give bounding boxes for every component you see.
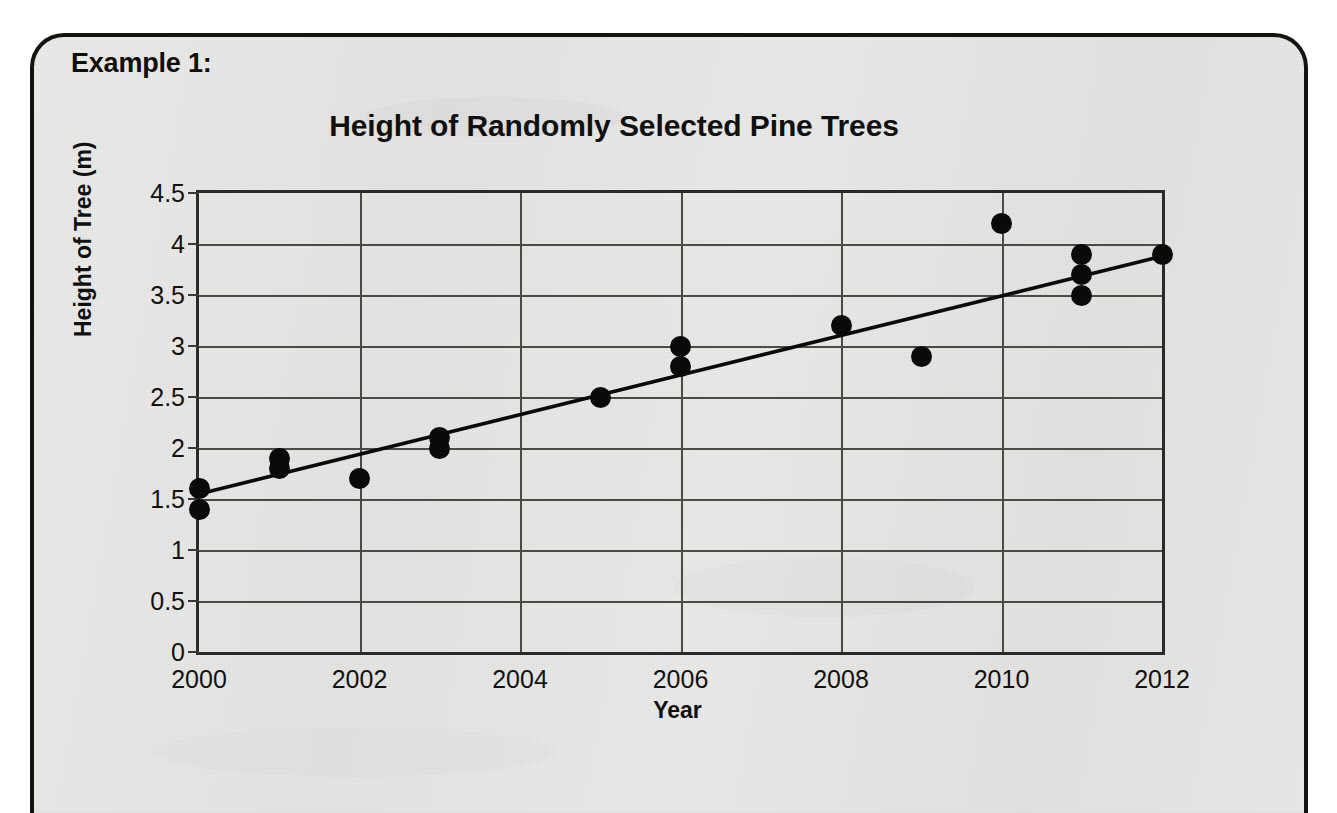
x-tick-label: 2012 xyxy=(1134,665,1190,694)
data-point xyxy=(429,438,450,459)
y-tick-mark xyxy=(188,651,199,653)
y-tick-mark xyxy=(188,192,199,194)
y-tick-label: 2 xyxy=(171,434,185,463)
data-point xyxy=(911,346,932,367)
worksheet-rounded-box: Example 1: Height of Randomly Selected P… xyxy=(30,33,1308,813)
y-tick-mark xyxy=(188,243,199,245)
x-tick-label: 2010 xyxy=(974,665,1030,694)
x-tick-label: 2004 xyxy=(492,665,548,694)
y-tick-mark xyxy=(188,600,199,602)
y-tick-mark xyxy=(188,294,199,296)
x-axis-title: Year xyxy=(196,697,1159,724)
data-point xyxy=(1071,244,1092,265)
y-tick-label: 1.5 xyxy=(150,485,185,514)
y-tick-mark xyxy=(188,345,199,347)
data-point xyxy=(991,213,1012,234)
x-tick-label: 2006 xyxy=(653,665,709,694)
y-tick-label: 4 xyxy=(171,230,185,259)
data-point xyxy=(1152,244,1173,265)
x-tick-label: 2002 xyxy=(332,665,388,694)
data-point xyxy=(349,468,370,489)
y-tick-label: 4.5 xyxy=(150,179,185,208)
x-tick-label: 2000 xyxy=(171,665,227,694)
scatter-chart: Height of Randomly Selected Pine Trees H… xyxy=(34,37,1308,737)
y-tick-label: 3.5 xyxy=(150,281,185,310)
y-tick-label: 3 xyxy=(171,332,185,361)
data-point xyxy=(189,478,210,499)
y-tick-label: 2.5 xyxy=(150,383,185,412)
data-point xyxy=(670,336,691,357)
y-tick-label: 0 xyxy=(171,638,185,667)
y-tick-label: 1 xyxy=(171,536,185,565)
data-point xyxy=(670,356,691,377)
chart-title: Height of Randomly Selected Pine Trees xyxy=(34,109,1194,143)
x-tick-label: 2008 xyxy=(813,665,869,694)
y-axis-title: Height of Tree (m) xyxy=(70,141,97,337)
data-point xyxy=(189,499,210,520)
y-tick-label: 0.5 xyxy=(150,587,185,616)
data-point xyxy=(269,458,290,479)
data-point xyxy=(1071,285,1092,306)
y-tick-mark xyxy=(188,447,199,449)
data-point xyxy=(590,387,611,408)
y-tick-mark xyxy=(188,549,199,551)
plot-area: 00.511.522.533.544.5 2000200220042006200… xyxy=(196,190,1165,655)
y-tick-mark xyxy=(188,396,199,398)
trendline xyxy=(199,193,1162,652)
data-point xyxy=(831,315,852,336)
